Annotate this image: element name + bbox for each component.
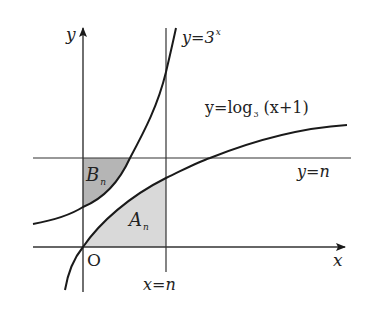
- label-region-a: An: [129, 211, 149, 229]
- region-a-subscript: n: [143, 222, 149, 232]
- label-horizontal-line: y=n: [297, 164, 330, 180]
- label-vertical-line: x=n: [143, 277, 176, 293]
- region-a-letter: A: [129, 209, 142, 230]
- label-exp-prefix: y=3: [182, 28, 215, 47]
- region-b-letter: B: [86, 164, 99, 185]
- label-region-b: Bn: [86, 166, 106, 184]
- region-b-subscript: n: [100, 177, 106, 187]
- label-log-curve: y=log3 (x+1): [205, 100, 309, 116]
- y-axis-label: y: [66, 26, 76, 43]
- label-log-prefix: y=log: [205, 98, 252, 117]
- label-exp-exponent: x: [216, 27, 221, 37]
- origin-label: O: [87, 252, 101, 269]
- curve-log: [65, 125, 347, 290]
- label-log-suffix: (x+1): [259, 98, 309, 117]
- x-axis-label: x: [333, 252, 343, 269]
- label-log-base: 3: [253, 110, 258, 119]
- label-exp-curve: y=3x: [182, 30, 221, 46]
- diagram-root: y x O y=3x y=log3 (x+1) y=n x=n Bn An: [0, 0, 373, 312]
